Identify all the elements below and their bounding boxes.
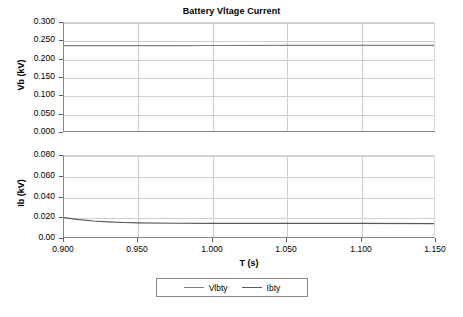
y-tick-mark <box>59 22 63 23</box>
ib-series-layer <box>64 156 434 237</box>
vb-y-axis-title: Vb (kV) <box>16 45 26 105</box>
y-tick-label: 0.060 <box>3 170 55 180</box>
x-tick-label: 1.100 <box>336 244 386 254</box>
x-tick-mark <box>435 238 436 242</box>
x-axis-title: T (s) <box>63 258 435 268</box>
y-tick-mark <box>59 95 63 96</box>
vb-plot-area <box>63 22 435 132</box>
x-tick-mark <box>212 238 213 242</box>
y-tick-mark <box>59 155 63 156</box>
vb-chart-panel: 0.0000.0500.1000.1500.2000.2500.300 <box>63 22 435 132</box>
x-tick-mark <box>63 238 64 242</box>
y-tick-label: 0.050 <box>3 108 55 118</box>
y-tick-mark <box>59 59 63 60</box>
legend-line-swatch-vlbty <box>184 287 204 288</box>
y-tick-label: 0.200 <box>3 53 55 63</box>
legend-line-swatch-ibty <box>242 287 262 288</box>
y-tick-mark <box>59 217 63 218</box>
legend-entry-vlbty: Vlbty <box>184 283 228 293</box>
y-tick-label: 0.100 <box>3 89 55 99</box>
ib-chart-panel: 0.000.0200.0400.0600.080 0.9000.9501.000… <box>63 155 435 238</box>
y-tick-label: 0.250 <box>3 34 55 44</box>
y-tick-mark <box>59 77 63 78</box>
vb-series-layer <box>64 23 434 131</box>
legend-entry-ibty: Ibty <box>242 283 281 293</box>
y-tick-label: 0.040 <box>3 191 55 201</box>
series-line-ibty <box>64 218 434 224</box>
chart-canvas: Battery Vltage Current 0.0000.0500.1000.… <box>0 0 463 317</box>
x-tick-label: 1.000 <box>187 244 237 254</box>
legend-label-ibty: Ibty <box>267 283 281 293</box>
y-tick-mark <box>59 197 63 198</box>
y-tick-mark <box>59 176 63 177</box>
y-tick-label: 0.00 <box>3 232 55 242</box>
x-tick-mark <box>137 238 138 242</box>
x-tick-mark <box>286 238 287 242</box>
x-tick-label: 1.050 <box>261 244 311 254</box>
ib-plot-area <box>63 155 435 238</box>
chart-title: Battery Vltage Current <box>0 6 463 16</box>
y-tick-mark <box>59 132 63 133</box>
legend-label-vlbty: Vlbty <box>209 283 228 293</box>
x-tick-label: 0.900 <box>38 244 88 254</box>
y-tick-label: 0.300 <box>3 16 55 26</box>
x-tick-mark <box>361 238 362 242</box>
y-tick-label: 0.000 <box>3 126 55 136</box>
x-tick-label: 1.150 <box>410 244 460 254</box>
y-tick-label: 0.020 <box>3 211 55 221</box>
y-tick-label: 0.150 <box>3 71 55 81</box>
y-tick-mark <box>59 40 63 41</box>
x-tick-label: 0.950 <box>112 244 162 254</box>
ib-y-axis-title: Ib (kV) <box>16 163 26 223</box>
y-tick-mark <box>59 114 63 115</box>
chart-legend: Vlbty Ibty <box>156 278 308 297</box>
y-tick-label: 0.080 <box>3 149 55 159</box>
